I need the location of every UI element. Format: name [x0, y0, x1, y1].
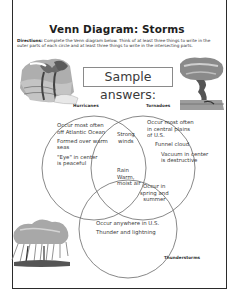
hurricane-illustration	[20, 59, 78, 104]
tornadoes-items: Occur most often in central plains of U.…	[147, 119, 208, 164]
sample-answers-heading: Sample answers:	[83, 67, 173, 87]
overlap-item: spring and	[140, 190, 169, 197]
tornadoes-item: Vacuum in center	[147, 151, 208, 158]
thunderstorms-item: Occur anywhere in U.S.	[96, 220, 159, 227]
tornado-illustration	[180, 58, 224, 110]
hurricanes-item: "Eye" in center	[57, 154, 108, 161]
hurricanes-items: Occur most often off Atlantic Ocean Form…	[57, 122, 108, 167]
overlap-item: summer	[140, 196, 169, 203]
hurricanes-item: off Atlantic Ocean	[57, 129, 108, 136]
thunderstorms-item: Thunder and lightning	[96, 229, 159, 236]
overlap-item: winds	[117, 138, 135, 145]
thunderstorm-illustration	[12, 219, 70, 267]
overlap-item: moist air	[117, 180, 141, 187]
overlap-item: Strong	[117, 131, 135, 138]
overlap-hurricanes-tornadoes: Strong winds	[117, 131, 135, 144]
tornadoes-item: of U.S.	[147, 132, 208, 139]
overlap-tornadoes-thunderstorms: Occur in spring and summer	[140, 183, 169, 203]
overlap-item: Warm,	[117, 174, 141, 181]
tornadoes-item: Funnel cloud	[147, 141, 208, 148]
thunderstorms-label: Thunderstorms	[164, 255, 200, 260]
overlap-all-three: Rain Warm, moist air	[117, 167, 141, 187]
tornadoes-label: Tornadoes	[146, 103, 170, 108]
tornadoes-item: in central plains	[147, 126, 208, 133]
hurricanes-item: Occur most often	[57, 122, 108, 129]
hurricanes-item: Formed over warm	[57, 138, 108, 145]
thunderstorms-items: Occur anywhere in U.S. Thunder and light…	[96, 220, 159, 236]
overlap-item: Rain	[117, 167, 141, 174]
tornadoes-item: is destructive	[147, 157, 208, 164]
hurricanes-item: is peaceful	[57, 160, 108, 167]
overlap-item: Occur in	[140, 183, 169, 190]
hurricanes-label: Hurricanes	[73, 103, 99, 108]
hurricanes-item: seas	[57, 144, 108, 151]
tornadoes-item: Occur most often	[147, 119, 208, 126]
